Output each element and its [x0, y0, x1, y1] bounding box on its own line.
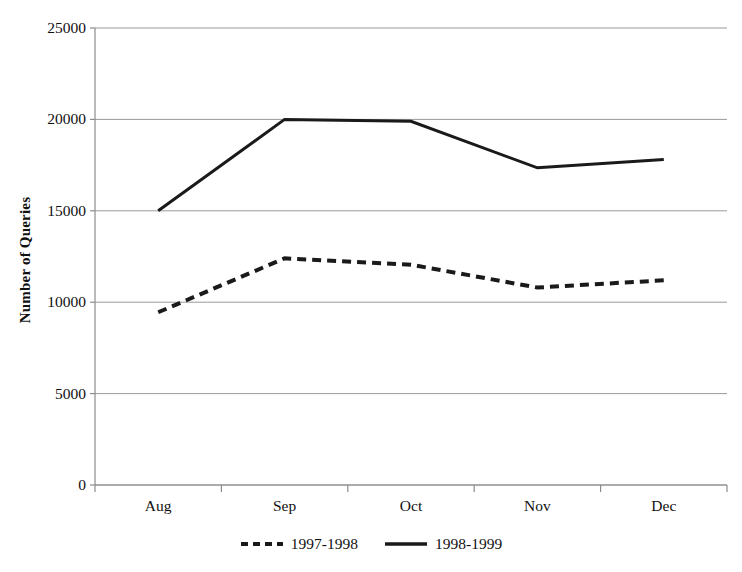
data-series	[158, 119, 664, 312]
legend-entry-1[interactable]: 1997-1998	[240, 535, 358, 553]
series-line-1	[158, 258, 664, 312]
chart-legend: 1997-19981998-1999	[0, 535, 742, 553]
line-chart-figure: Number of Queries 0500010000150002000025…	[0, 0, 742, 572]
plot-area	[0, 0, 742, 572]
legend-label: 1998-1999	[435, 535, 502, 553]
dashed-line-icon	[240, 538, 284, 550]
legend-entry-2[interactable]: 1998-1999	[384, 535, 502, 553]
gridlines	[95, 28, 727, 485]
axis-ticks	[90, 28, 727, 492]
legend-label: 1997-1998	[291, 535, 358, 553]
series-line-2	[158, 119, 664, 210]
solid-line-icon	[384, 538, 428, 550]
axis-lines	[95, 28, 727, 485]
